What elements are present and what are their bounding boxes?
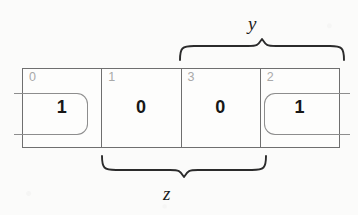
- cell-value: 1: [261, 97, 339, 118]
- kmap-cell-2[interactable]: 2 1: [261, 69, 339, 147]
- brace-y: [176, 38, 348, 62]
- cell-index: 1: [108, 71, 115, 85]
- brace-y-label: y: [248, 14, 256, 33]
- cell-value: 0: [102, 97, 180, 118]
- kmap-cell-0[interactable]: 0 1: [23, 69, 102, 147]
- cell-value: 1: [23, 97, 101, 118]
- kmap-diagram: y 0 1 1 0 3 0 2 1 z: [0, 0, 358, 215]
- cell-index: 2: [267, 71, 274, 85]
- cell-value: 0: [182, 97, 260, 118]
- kmap-grid: 0 1 1 0 3 0 2 1: [22, 68, 340, 148]
- cell-index: 0: [29, 71, 36, 85]
- kmap-cell-3[interactable]: 3 0: [182, 69, 261, 147]
- kmap-cell-1[interactable]: 1 0: [102, 69, 181, 147]
- cell-index: 3: [188, 71, 195, 85]
- brace-z-label: z: [163, 184, 170, 203]
- brace-z: [98, 154, 270, 180]
